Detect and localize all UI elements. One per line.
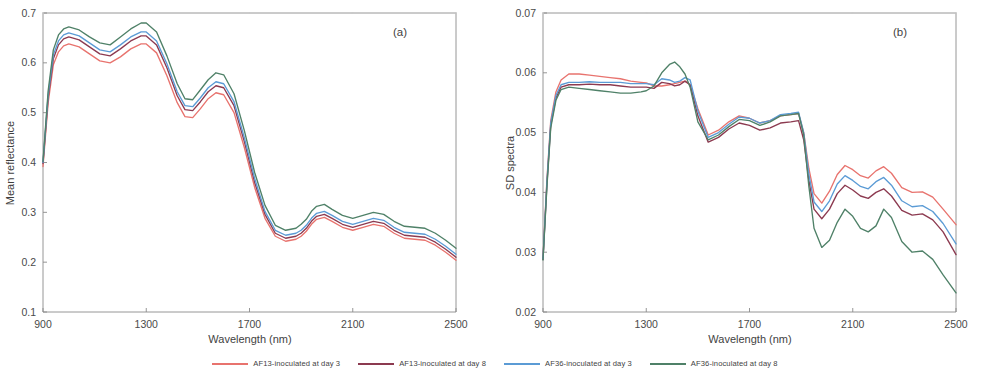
legend-color-swatch — [650, 363, 686, 365]
y-tick-label: 0.04 — [516, 186, 537, 198]
y-tick-label: 0.3 — [21, 206, 36, 218]
legend-entry[interactable]: AF13-inoculated at day 8 — [358, 359, 486, 368]
y-tick-label: 0.1 — [21, 306, 36, 318]
legend-color-swatch — [358, 363, 394, 365]
legend-entries: AF13-inoculated at day 3AF13-inoculated … — [203, 359, 786, 368]
y-tick-label: 0.2 — [21, 256, 36, 268]
chart-a-panel-tag: (a) — [393, 26, 407, 38]
legend-color-swatch — [504, 363, 540, 365]
y-tick-label: 0.4 — [21, 156, 36, 168]
legend-entry[interactable]: AF36-inoculated at day 8 — [650, 359, 778, 368]
y-tick-label: 0.02 — [516, 306, 537, 318]
y-tick-label: 0.06 — [516, 66, 537, 78]
chart-b-x-axis-title: Wavelength (nm) — [708, 333, 791, 345]
series-line — [543, 74, 956, 258]
y-tick-label: 0.03 — [516, 246, 537, 258]
x-tick-label: 2100 — [341, 318, 365, 330]
x-tick-label: 2500 — [944, 318, 968, 330]
x-tick-label: 900 — [534, 318, 552, 330]
y-tick-label: 0.5 — [21, 106, 36, 118]
y-tick-label: 0.07 — [516, 7, 537, 19]
legend-label: AF36-inoculated at day 3 — [545, 359, 632, 368]
chart-legend: AF13-inoculated at day 3AF13-inoculated … — [0, 348, 990, 379]
legend-label: AF13-inoculated at day 8 — [399, 359, 486, 368]
y-tick-label: 0.05 — [516, 126, 537, 138]
chart-a-series-lines — [43, 23, 456, 260]
legend-color-swatch — [212, 363, 248, 365]
x-tick-label: 1700 — [238, 318, 262, 330]
x-tick-label: 2500 — [444, 318, 468, 330]
x-tick-label: 1300 — [635, 318, 659, 330]
legend-label: AF13-inoculated at day 3 — [253, 359, 340, 368]
chart-b-axes — [543, 13, 956, 312]
series-line — [43, 36, 456, 257]
x-tick-label: 1300 — [135, 318, 159, 330]
x-tick-label: 900 — [34, 318, 52, 330]
series-line — [543, 78, 956, 259]
legend-entry[interactable]: AF36-inoculated at day 3 — [504, 359, 632, 368]
chart-a-x-axis-title: Wavelength (nm) — [208, 333, 291, 345]
series-line — [543, 81, 956, 259]
figure-container: 0.70.60.50.40.30.20.1 900130017002100250… — [0, 0, 990, 379]
y-tick-label: 0.6 — [21, 56, 36, 68]
chart-a-y-axis-title: Mean reflectance — [4, 121, 16, 205]
chart-b-series-lines — [543, 62, 956, 293]
y-tick-label: 0.7 — [21, 7, 36, 19]
chart-a-svg: 0.70.60.50.40.30.20.1 900130017002100250… — [0, 0, 495, 348]
x-tick-label: 2100 — [841, 318, 865, 330]
series-line — [43, 23, 456, 248]
chart-b-y-ticks: 0.070.060.050.040.030.02 — [516, 7, 547, 318]
chart-panel-b: 0.070.060.050.040.030.02 900130017002100… — [495, 0, 990, 348]
legend-entry[interactable]: AF13-inoculated at day 3 — [212, 359, 340, 368]
chart-b-y-axis-title: SD spectra — [504, 135, 516, 190]
x-tick-label: 1700 — [738, 318, 762, 330]
chart-b-panel-tag: (b) — [893, 26, 907, 38]
chart-panel-a: 0.70.60.50.40.30.20.1 900130017002100250… — [0, 0, 495, 348]
legend-label: AF36-inoculated at day 8 — [691, 359, 778, 368]
chart-b-svg: 0.070.060.050.040.030.02 900130017002100… — [495, 0, 990, 348]
chart-b-x-ticks: 9001300170021002500 — [534, 12, 968, 330]
